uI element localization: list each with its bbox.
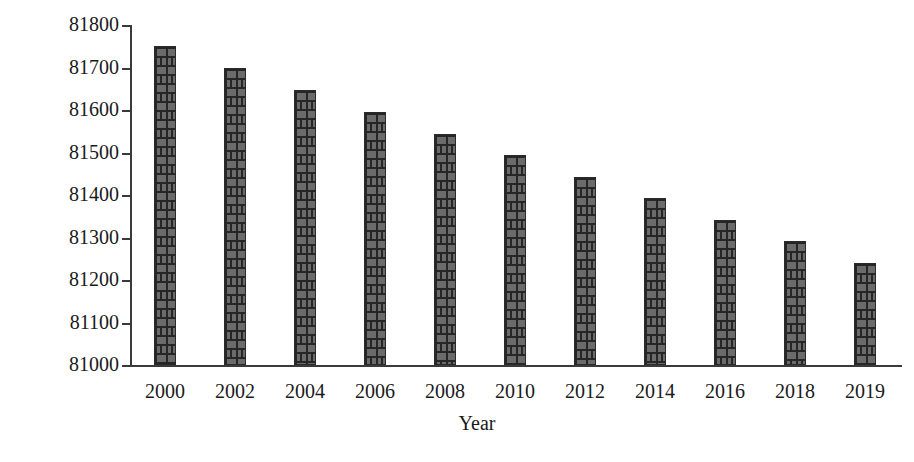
bar-chart: Forest Cover (Hectares) 8180081700816008… <box>0 0 914 462</box>
y-axis-tick-mark <box>122 323 130 325</box>
y-axis-tick-mark <box>122 365 130 367</box>
y-axis-tick-label: 81200 <box>19 267 119 291</box>
y-axis-tick-label: 81000 <box>19 352 119 376</box>
x-axis-tick-label: 2002 <box>195 378 275 404</box>
y-axis-tick-mark <box>122 68 130 70</box>
bar <box>434 134 456 365</box>
x-axis-tick-label: 2000 <box>125 378 205 404</box>
y-axis-tick-mark <box>122 238 130 240</box>
x-axis-title: Year <box>0 412 914 435</box>
x-axis-tick-label: 2008 <box>405 378 485 404</box>
y-axis-tick-label: 81800 <box>19 12 119 36</box>
bar <box>574 177 596 365</box>
x-axis-tick-label: 2016 <box>685 378 765 404</box>
y-axis-tick-label: 81400 <box>19 182 119 206</box>
x-axis-tick-label: 2010 <box>475 378 555 404</box>
bar <box>784 241 806 365</box>
bar <box>294 90 316 365</box>
bar <box>364 112 386 365</box>
x-axis-tick-label: 2012 <box>545 378 625 404</box>
x-axis-tick-label: 2014 <box>615 378 695 404</box>
bar <box>644 198 666 365</box>
y-axis-tick-label: 81600 <box>19 97 119 121</box>
x-axis-tick-label: 2006 <box>335 378 415 404</box>
x-axis-tick-label: 2018 <box>755 378 835 404</box>
y-axis-tick-mark <box>122 153 130 155</box>
y-axis-tick-label: 81300 <box>19 225 119 249</box>
y-axis-tick-mark <box>122 195 130 197</box>
y-axis-tick-label: 81500 <box>19 140 119 164</box>
bar <box>154 46 176 365</box>
y-axis-tick-label: 81100 <box>19 310 119 334</box>
y-axis-tick-mark <box>122 280 130 282</box>
x-axis-tick-label: 2004 <box>265 378 345 404</box>
y-axis-tick-mark <box>122 110 130 112</box>
x-axis-tick-label: 2019 <box>825 378 905 404</box>
bar <box>504 155 526 365</box>
bar <box>854 263 876 365</box>
y-axis-tick-mark <box>122 25 130 27</box>
x-axis-line <box>130 365 902 367</box>
bar <box>714 220 736 365</box>
bar <box>224 68 246 365</box>
y-axis-tick-label: 81700 <box>19 55 119 79</box>
plot-area: 8180081700816008150081400813008120081100… <box>130 25 900 365</box>
